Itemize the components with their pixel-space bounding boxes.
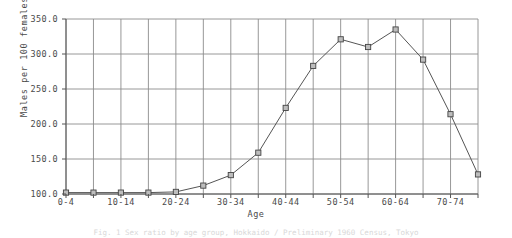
data-point-marker[interactable] — [311, 63, 316, 68]
data-point-marker[interactable] — [283, 105, 288, 110]
data-point-marker[interactable] — [173, 189, 178, 194]
x-axis-tick-label: 40-44 — [272, 197, 300, 207]
chart-container: 350.0300.0250.0200.0150.0100.0 Males per… — [0, 0, 512, 238]
data-point-marker[interactable] — [256, 150, 261, 155]
x-axis-label: Age — [0, 209, 512, 219]
x-axis-tick-label: 70-74 — [437, 197, 465, 207]
data-point-marker[interactable] — [201, 183, 206, 188]
x-axis-tick-label: 60-64 — [382, 197, 410, 207]
figure-caption: Fig. 1 Sex ratio by age group, Hokkaido … — [0, 228, 512, 237]
x-axis-tick-label: 0-4 — [58, 197, 75, 207]
x-axis-tick-label: 20-24 — [162, 197, 190, 207]
data-point-marker[interactable] — [338, 37, 343, 42]
data-point-marker[interactable] — [228, 173, 233, 178]
data-point-marker[interactable] — [448, 112, 453, 117]
data-point-marker[interactable] — [475, 172, 480, 177]
data-point-marker[interactable] — [393, 27, 398, 32]
plot-area — [0, 0, 512, 238]
x-axis-tick-label: 10-14 — [107, 197, 135, 207]
data-point-marker[interactable] — [366, 44, 371, 49]
x-axis-tick-label: 50-54 — [327, 197, 355, 207]
x-axis-tick-label: 30-34 — [217, 197, 245, 207]
data-point-marker[interactable] — [421, 57, 426, 62]
